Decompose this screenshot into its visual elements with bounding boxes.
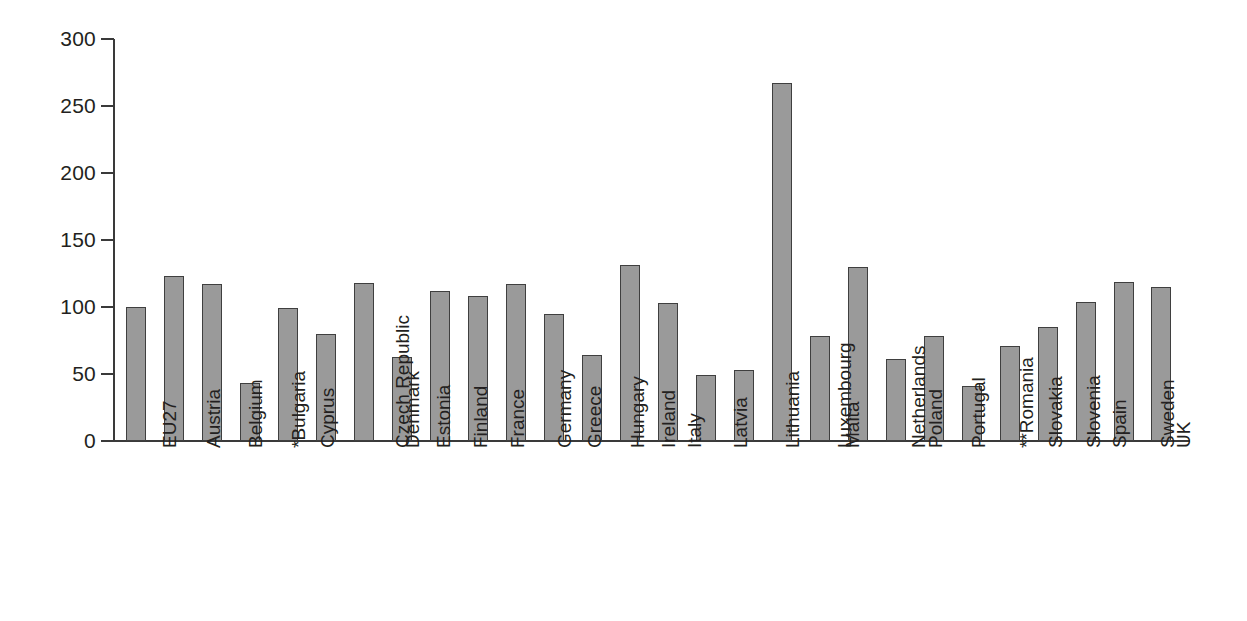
bar-eu27[interactable] (126, 307, 146, 441)
y-axis-tick-label: 100 (0, 296, 96, 317)
x-axis-label: Slovakia (1045, 376, 1064, 448)
bar-slot (1105, 39, 1143, 441)
x-axis-label-slot: Latvia (687, 444, 725, 619)
x-axis-label-slot: Denmark (345, 444, 383, 619)
y-axis-tick-label: 50 (0, 363, 96, 384)
x-axis-label: Belgium (246, 379, 265, 448)
x-axis-label: Greece (585, 386, 604, 448)
x-axis-label: Hungary (628, 376, 647, 448)
x-axis-label-slot: Ireland (611, 444, 649, 619)
x-axis-label-slot: Hungary (573, 444, 611, 619)
x-axis-label-slot: Slovenia (1029, 444, 1067, 619)
bar-slot (193, 39, 231, 441)
x-axis-label-slot: Austria (155, 444, 193, 619)
bar-slot (497, 39, 535, 441)
x-axis-label: *Bulgaria (288, 371, 307, 448)
bar-slot (155, 39, 193, 441)
x-axis-label-slot: Malta (801, 444, 839, 619)
bar-slot (459, 39, 497, 441)
x-axis-label-slot: Luxembourg (763, 444, 801, 619)
x-axis-label-slot: Poland (877, 444, 915, 619)
x-axis-label: Italy (685, 413, 704, 448)
bar-slot (649, 39, 687, 441)
x-axis-label-slot: Netherlands (839, 444, 877, 619)
x-axis-label-slot: Belgium (193, 444, 231, 619)
x-axis-label-slot: Germany (497, 444, 535, 619)
x-axis-label: Lithuania (782, 371, 801, 448)
bar-slot (725, 39, 763, 441)
bar-denmark[interactable] (354, 283, 374, 441)
bar-slot (345, 39, 383, 441)
x-axis-label: EU27 (160, 400, 179, 448)
x-axis-label-slot: Lithuania (725, 444, 763, 619)
x-axis-label-slot: Spain (1067, 444, 1105, 619)
bar-poland[interactable] (886, 359, 906, 441)
x-axis-label-slot: Slovakia (991, 444, 1029, 619)
x-axis-label-slot: Sweden (1105, 444, 1143, 619)
x-axis-label-slot: UK (1143, 444, 1181, 619)
x-axis-label-slot: EU27 (117, 444, 155, 619)
x-axis-label-slot: Portugal (915, 444, 953, 619)
x-axis-label-slot: Italy (649, 444, 687, 619)
x-axis-label: Germany (555, 370, 574, 448)
bar-slot (307, 39, 345, 441)
bar-slot (117, 39, 155, 441)
x-axis-label-slot: Finland (421, 444, 459, 619)
x-axis-label: Latvia (731, 397, 750, 448)
y-axis-tick-label: 250 (0, 95, 96, 116)
x-axis-label: Spain (1110, 399, 1129, 448)
x-axis-label: Ireland (659, 390, 678, 448)
y-axis-tick-label: 300 (0, 28, 96, 49)
y-axis-tick-label: 150 (0, 229, 96, 250)
bar-malta[interactable] (810, 336, 830, 441)
x-axis-label: Slovenia (1084, 375, 1103, 448)
x-axis-label-slot: Estonia (383, 444, 421, 619)
x-axis-label: Finland (471, 386, 490, 448)
x-axis-label: France (507, 389, 526, 448)
x-axis-label: Austria (203, 389, 222, 448)
x-axis-label: Poland (925, 389, 944, 448)
x-axis-label-slot: **Romania (953, 444, 991, 619)
x-axis-label: UK (1175, 422, 1194, 448)
y-axis-tick-label: 200 (0, 162, 96, 183)
x-axis-label-slot: France (459, 444, 497, 619)
bar-slot (421, 39, 459, 441)
x-axis-label-slot: Cyprus (269, 444, 307, 619)
x-axis-label: Malta (843, 402, 862, 448)
x-axis-label: Cyprus (318, 388, 337, 448)
x-axis-label: Estonia (433, 385, 452, 448)
x-axis-labels: EU27AustriaBelgium*BulgariaCyprusCzech R… (113, 444, 1190, 619)
x-axis-label: Portugal (969, 377, 988, 448)
x-axis-label: **Romania (1017, 357, 1036, 448)
bar-chart: 050100150200250300 EU27AustriaBelgium*Bu… (0, 0, 1247, 621)
x-axis-label-slot: *Bulgaria (231, 444, 269, 619)
x-axis-label-slot: Czech Republic (307, 444, 345, 619)
bar-slot (573, 39, 611, 441)
x-axis-label: Denmark (402, 371, 421, 448)
y-axis-tick-label: 0 (0, 430, 96, 451)
x-axis-label-slot: Greece (535, 444, 573, 619)
bar-slot (687, 39, 725, 441)
